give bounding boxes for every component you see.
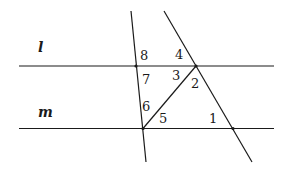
angle-label-6: 6 [142,99,150,114]
intersection-point [134,64,137,67]
geometry-diagram: lm12345678 [0,0,286,172]
intersection-point [141,127,144,130]
angle-label-2: 2 [191,76,199,91]
labels-group: lm12345678 [38,39,217,126]
angle-label-5: 5 [159,111,167,126]
angle-label-8: 8 [140,48,148,63]
angle-label-7: 7 [142,72,150,87]
line-diagonal [143,66,196,129]
intersection-point [194,64,197,67]
line-label-m: m [38,104,53,120]
line-label-l: l [38,39,43,55]
line-right-transversal [164,11,252,162]
angle-label-1: 1 [209,111,217,126]
intersection-point [231,127,234,130]
angle-label-3: 3 [172,68,180,83]
angle-label-4: 4 [175,47,183,62]
